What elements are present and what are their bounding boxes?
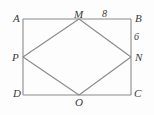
- vertex-label-d: D: [13, 88, 21, 99]
- segment-no: [79, 57, 131, 95]
- vertex-label-b: B: [135, 13, 142, 24]
- rectangle-abcd: [23, 19, 131, 95]
- geometry-figure: A B C D M N O P 8 6: [0, 0, 154, 115]
- vertex-label-m: M: [74, 9, 83, 20]
- segment-mn: [79, 19, 131, 57]
- vertex-label-c: C: [134, 88, 141, 99]
- segment-pm: [23, 19, 79, 57]
- vertex-label-a: A: [13, 13, 20, 24]
- vertex-label-p: P: [12, 52, 19, 63]
- measure-label-bn: 6: [134, 32, 139, 42]
- vertex-label-n: N: [135, 52, 142, 63]
- vertex-label-o: O: [75, 97, 83, 108]
- measure-label-mb: 8: [102, 9, 107, 19]
- rhombus-mnop: [23, 19, 131, 95]
- segment-op: [23, 57, 79, 95]
